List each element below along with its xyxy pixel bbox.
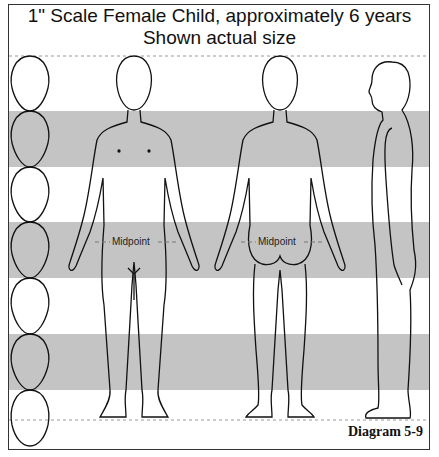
diagram-caption: Diagram 5-9 bbox=[348, 424, 423, 440]
midpoint-labels: Midpoint Midpoint bbox=[0, 0, 439, 457]
front-midpoint-label: Midpoint bbox=[112, 236, 150, 247]
back-midpoint-label: Midpoint bbox=[258, 236, 296, 247]
